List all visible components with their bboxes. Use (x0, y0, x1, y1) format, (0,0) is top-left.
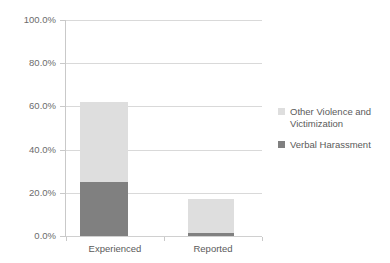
bar-experienced-segment-verbal-harassment (80, 182, 128, 236)
y-axis-label-0: 0.0% (0, 231, 56, 241)
bar-reported (188, 199, 234, 236)
plot-area (66, 20, 262, 236)
legend-item-other-violence: Other Violence and Victimization (278, 106, 386, 130)
chart-legend: Other Violence and Victimization Verbal … (278, 106, 386, 160)
legend-label-verbal-harassment: Verbal Harassment (290, 139, 371, 151)
x-axis-tick-middle (164, 237, 165, 241)
legend-swatch-icon-other-violence (278, 108, 285, 115)
x-axis-tick-start (66, 237, 67, 241)
y-axis-label-60: 60.0% (0, 101, 56, 111)
gridline-80 (66, 63, 262, 64)
legend-swatch-icon-verbal-harassment (278, 141, 285, 148)
y-axis-label-40: 40.0% (0, 145, 56, 155)
gridline-100 (66, 20, 262, 21)
x-axis-tick-end (262, 237, 263, 241)
bar-experienced-segment-other-violence (80, 102, 128, 182)
bar-reported-segment-verbal-harassment (188, 233, 234, 236)
bar-experienced (80, 102, 128, 236)
y-axis-label-20: 20.0% (0, 188, 56, 198)
stacked-bar-chart: 100.0% 80.0% 60.0% 40.0% 20.0% 0.0% Expe (0, 0, 390, 263)
legend-item-verbal-harassment: Verbal Harassment (278, 139, 386, 151)
y-axis-label-80: 80.0% (0, 58, 56, 68)
x-axis-label-reported: Reported (153, 243, 273, 255)
legend-label-other-violence: Other Violence and Victimization (290, 106, 386, 130)
bar-reported-segment-other-violence (188, 199, 234, 233)
y-axis-label-100: 100.0% (0, 15, 56, 25)
